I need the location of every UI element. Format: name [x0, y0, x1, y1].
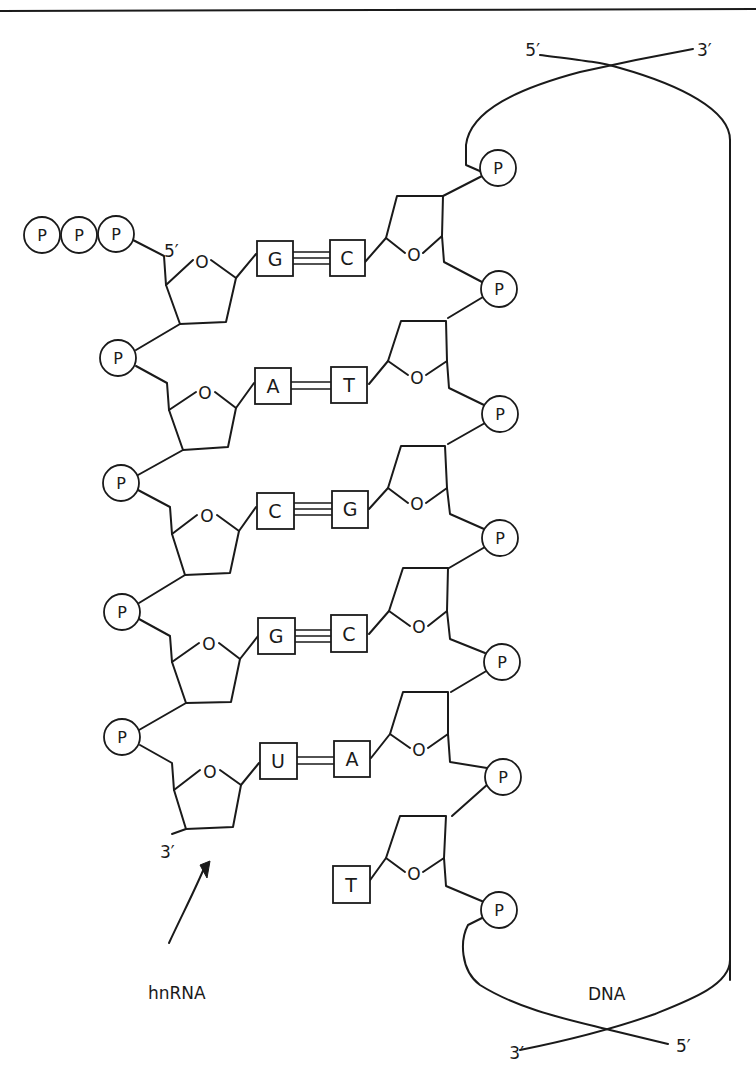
hydrogen-bonds [291, 252, 334, 764]
svg-text:T: T [342, 374, 355, 396]
phosphate-circle: P [98, 216, 134, 252]
phosphate-circle: P [481, 271, 517, 307]
dna-base-box: T [331, 367, 367, 403]
dna-backbone [365, 175, 488, 902]
svg-text:A: A [267, 375, 280, 397]
rna-base-box: U [260, 743, 297, 779]
dna-unpaired-base-box: T [333, 866, 370, 903]
transcription-diagram: O O O O O O O O O O O G A [0, 0, 756, 1074]
svg-text:P: P [494, 901, 504, 920]
svg-text:P: P [113, 349, 123, 368]
ring-oxygen: O [198, 383, 211, 403]
ring-oxygen: O [410, 494, 423, 514]
phosphate-circle: P [480, 150, 516, 186]
svg-text:G: G [343, 498, 358, 520]
svg-text:P: P [495, 405, 505, 424]
rna-base-box: G [258, 618, 295, 654]
rna-5prime-label: 5′ [164, 241, 179, 261]
phosphate-circle: P [482, 520, 518, 556]
svg-text:G: G [269, 625, 284, 647]
svg-text:P: P [74, 226, 84, 245]
rna-3prime-label: 3′ [160, 842, 175, 862]
svg-text:P: P [498, 768, 508, 787]
ring-oxygen: O [200, 506, 213, 526]
ring-oxygen: O [202, 634, 215, 654]
svg-text:P: P [116, 474, 126, 493]
svg-text:P: P [494, 280, 504, 299]
dna-bottom-3prime-label: 3′ [509, 1043, 524, 1063]
ring-oxygen: O [407, 245, 420, 265]
phosphate-circle: P [485, 759, 521, 795]
phosphate-circle: P [100, 340, 136, 376]
phosphate-circle: P [482, 396, 518, 432]
top-rule [0, 9, 756, 11]
dna-base-box: C [330, 240, 365, 276]
svg-text:G: G [268, 248, 283, 270]
phosphate-circle: P [24, 217, 60, 253]
dna-base-box: A [334, 741, 370, 777]
phosphate-circle: P [481, 892, 517, 928]
rna-base-box: A [255, 368, 291, 404]
phosphate-circle: P [484, 644, 520, 680]
phosphate-circle: P [61, 217, 97, 253]
dna-base-box: C [331, 615, 367, 652]
svg-text:C: C [342, 623, 355, 645]
ring-oxygen: O [203, 762, 216, 782]
rna-triphosphate: P P P [24, 216, 134, 253]
svg-text:P: P [497, 653, 507, 672]
ring-oxygen: O [412, 740, 425, 760]
dna-bottom-5prime-label: 5′ [676, 1036, 691, 1056]
svg-text:P: P [111, 225, 121, 244]
ring-oxygen: O [412, 617, 425, 637]
hnrna-label: hnRNA [148, 983, 206, 1003]
svg-text:C: C [268, 500, 281, 522]
rna-bases: G A C G U [255, 241, 297, 779]
svg-text:A: A [346, 748, 359, 770]
dna-phosphates: P P P P P P P [480, 150, 521, 928]
arrow-icon [169, 861, 210, 943]
svg-text:P: P [117, 603, 127, 622]
svg-text:P: P [493, 159, 503, 178]
dna-ring-oxygens: O O O O O O [407, 245, 425, 884]
svg-text:T: T [344, 874, 357, 896]
rna-base-box: G [257, 241, 293, 276]
ring-oxygen: O [195, 252, 208, 272]
svg-text:P: P [37, 226, 47, 245]
ring-oxygen: O [407, 864, 420, 884]
dna-label: DNA [588, 984, 626, 1004]
phosphate-circle: P [103, 465, 139, 501]
svg-text:P: P [117, 728, 127, 747]
svg-text:P: P [495, 529, 505, 548]
phosphate-circle: P [104, 719, 140, 755]
dna-top-5prime-label: 5′ [525, 40, 540, 60]
svg-text:C: C [340, 247, 353, 269]
ring-oxygen: O [410, 368, 423, 388]
rna-backbone [133, 240, 259, 834]
dna-bases: C T G C A T [330, 240, 370, 903]
rna-base-box: C [257, 493, 294, 529]
dna-base-box: G [332, 491, 368, 528]
svg-text:U: U [271, 750, 285, 772]
rna-phosphates: P P P P [100, 340, 140, 755]
phosphate-circle: P [104, 594, 140, 630]
dna-top-3prime-label: 3′ [697, 40, 712, 60]
